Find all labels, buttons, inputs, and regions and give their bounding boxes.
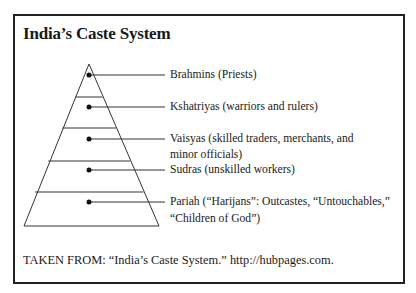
level-label-vaisyas: Vaisyas (skilled traders, merchants, and… bbox=[170, 131, 354, 163]
bullet-dot bbox=[87, 168, 92, 173]
label-line: “Children of God”) bbox=[170, 211, 390, 227]
label-line: Vaisyas (skilled traders, merchants, and bbox=[170, 131, 354, 147]
level-label-brahmins: Brahmins (Priests) bbox=[170, 67, 257, 83]
bullet-dot bbox=[87, 200, 92, 205]
label-line: minor officials) bbox=[170, 147, 354, 163]
level-label-sudras: Sudras (unskilled workers) bbox=[170, 162, 295, 178]
bullet-dot bbox=[87, 105, 92, 110]
bullet-dot bbox=[87, 137, 92, 142]
label-line: Pariah (“Harijans”: Outcastes, “Untoucha… bbox=[170, 194, 390, 210]
level-label-pariah: Pariah (“Harijans”: Outcastes, “Untoucha… bbox=[170, 194, 390, 227]
label-line: Sudras (unskilled workers) bbox=[170, 162, 295, 178]
label-line: Kshatriyas (warriors and rulers) bbox=[170, 99, 318, 115]
label-line: Brahmins (Priests) bbox=[170, 67, 257, 83]
level-label-kshatriyas: Kshatriyas (warriors and rulers) bbox=[170, 99, 318, 115]
bullet-dot bbox=[87, 73, 92, 78]
source-citation: TAKEN FROM: “India’s Caste System.” http… bbox=[23, 253, 334, 268]
